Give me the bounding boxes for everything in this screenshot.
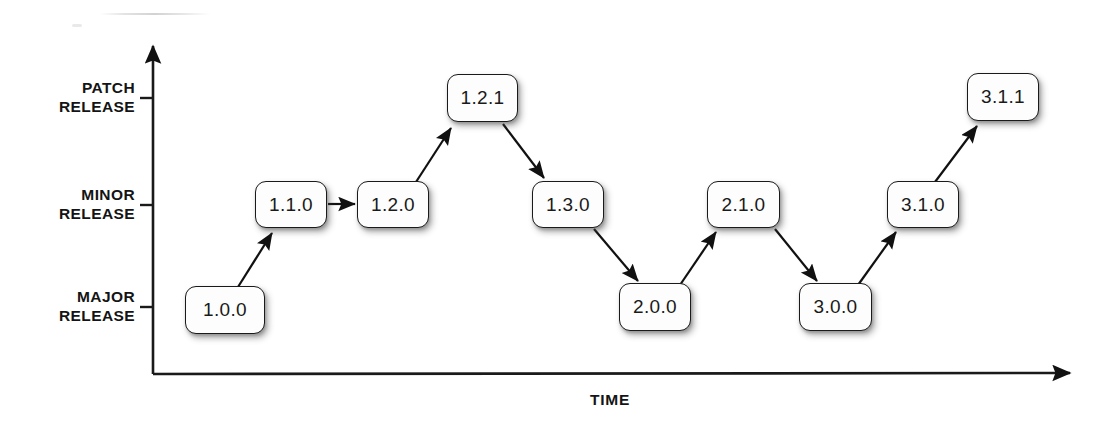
edge-2.0.0-to-2.1.0 [680,232,716,285]
axis-label-minor-release: MINOR RELEASE [0,185,135,223]
edge-1.0.0-to-1.1.0 [238,233,272,287]
release-node-2.0.0[interactable]: 2.0.0 [619,283,691,331]
release-node-1.0.0[interactable]: 1.0.0 [185,286,265,334]
release-node-3.1.1[interactable]: 3.1.1 [967,73,1039,121]
edge-group [238,124,977,287]
release-node-1.2.0[interactable]: 1.2.0 [357,181,429,228]
edge-1.3.0-to-2.0.0 [594,229,638,281]
release-node-3.0.0[interactable]: 3.0.0 [799,283,872,331]
axis-label-patch-release: PATCH RELEASE [0,78,135,116]
release-node-1.3.0[interactable]: 1.3.0 [532,181,604,228]
x-axis-line [153,373,1070,374]
edge-1.2.0-to-1.2.1 [416,128,451,182]
release-node-1.2.1[interactable]: 1.2.1 [447,74,518,122]
edge-3.1.0-to-3.1.1 [935,126,977,182]
edge-3.0.0-to-3.1.0 [858,232,896,285]
axis-label-time: TIME [530,391,690,409]
release-node-2.1.0[interactable]: 2.1.0 [707,181,780,228]
release-node-1.1.0[interactable]: 1.1.0 [255,181,327,228]
release-timeline-diagram: PATCH RELEASE MINOR RELEASE MAJOR RELEAS… [0,0,1106,435]
release-node-3.1.0[interactable]: 3.1.0 [887,181,959,228]
axis-label-major-release: MAJOR RELEASE [0,287,135,325]
edge-2.1.0-to-3.0.0 [775,229,817,281]
edge-1.2.1-to-1.3.0 [503,124,544,178]
